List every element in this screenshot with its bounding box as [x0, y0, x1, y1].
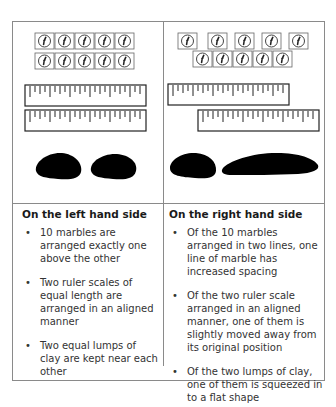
list-item: Of the two lumps of clay, one of them is…	[169, 365, 325, 404]
ruler-icon-shifted	[198, 110, 319, 131]
right-heading: On the right hand side	[169, 208, 325, 221]
ruler-icon	[168, 84, 289, 105]
clay-lump-icon	[36, 153, 81, 179]
marble-icon	[35, 33, 54, 49]
clay-flat-icon	[222, 153, 318, 175]
left-clay	[36, 153, 136, 179]
list-item: Of the two ruler scale arranged in an al…	[169, 289, 325, 354]
conservation-figure	[0, 0, 336, 204]
left-rulers	[25, 85, 146, 131]
right-marbles	[178, 33, 308, 67]
ruler-icon	[25, 85, 146, 106]
right-clay	[170, 153, 318, 178]
right-description: On the right hand side Of the 10 marbles…	[169, 208, 325, 407]
ruler-icon	[25, 110, 146, 131]
right-bullet-list: Of the 10 marbles arranged in two lines,…	[169, 226, 325, 404]
left-bullet-list: 10 marbles are arranged exactly one abov…	[22, 226, 158, 378]
list-item: Of the 10 marbles arranged in two lines,…	[169, 226, 325, 278]
clay-lump-icon	[170, 153, 216, 178]
list-item: Two equal lumps of clay are kept near ea…	[22, 339, 158, 378]
list-item: Two ruler scales of equal length are arr…	[22, 276, 158, 328]
left-description: On the left hand side 10 marbles are arr…	[22, 208, 158, 389]
list-item: 10 marbles are arranged exactly one abov…	[22, 226, 158, 265]
clay-lump-icon	[91, 154, 136, 179]
left-heading: On the left hand side	[22, 208, 158, 221]
left-marbles	[35, 33, 134, 69]
right-rulers	[168, 84, 319, 131]
